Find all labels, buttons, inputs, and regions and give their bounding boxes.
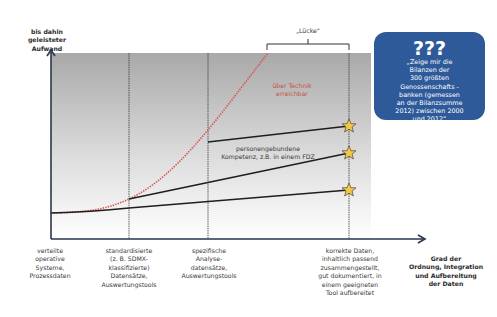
- label-line: über Technik: [262, 82, 322, 90]
- label-line: standardisierte: [94, 247, 164, 255]
- y-axis-label: bis dahin geleisteter Aufwand: [12, 28, 82, 53]
- label-line: zusammengestellt,: [305, 264, 395, 272]
- label-line: (z. B. SDMX-: [94, 255, 164, 263]
- stage-label-2: standardisierte (z. B. SDMX- klassifizie…: [94, 247, 164, 289]
- label-line: „Zeige mir die: [380, 58, 479, 66]
- label-line: spezifische: [174, 247, 244, 255]
- x-axis-label: Grad der Ordnung, Integration und Aufber…: [406, 255, 486, 289]
- red-curve-label: über Technik erreichbar: [262, 82, 322, 99]
- label-line: der Daten: [406, 280, 486, 288]
- label-line: an der Bilanzsumme: [380, 99, 479, 107]
- y-axis-label-line: bis dahin: [12, 28, 82, 36]
- callout-text: „Zeige mir die Bilanzen der 300 größten …: [374, 58, 485, 124]
- label-line: personengebundene: [213, 145, 323, 153]
- label-line: Grad der: [406, 255, 486, 263]
- label-line: korrekte Daten,: [305, 247, 395, 255]
- label-line: Analyse-: [174, 255, 244, 263]
- label-line: erreichbar: [262, 90, 322, 98]
- gap-bracket: [267, 39, 349, 50]
- label-line: Datensätze,: [94, 272, 164, 280]
- label-line: 300 größten: [380, 74, 479, 82]
- label-line: und 2012“: [380, 115, 479, 123]
- competence-label: personengebundene Kompetenz, z.B. in ein…: [213, 145, 323, 162]
- label-line: klassifizierte): [94, 264, 164, 272]
- stage-label-1: verteilte operative Systeme, Prozessdate…: [20, 247, 80, 281]
- label-line: inhaltlich passend: [305, 255, 395, 263]
- label-line: 2012) zwischen 2000: [380, 107, 479, 115]
- label-line: und Aufbereitung: [406, 272, 486, 280]
- label-line: Bilanzen der: [380, 66, 479, 74]
- callout-title: ???: [374, 38, 485, 58]
- label-line: Auswertungstools: [174, 272, 244, 280]
- gap-label: „Lücke“: [283, 27, 333, 35]
- label-line: Prozessdaten: [20, 272, 80, 280]
- label-line: operative: [20, 255, 80, 263]
- y-axis-label-line: geleisteter Aufwand: [12, 36, 82, 53]
- label-line: einem geeigneten: [305, 281, 395, 289]
- stage-label-4: korrekte Daten, inhaltlich passend zusam…: [305, 247, 395, 297]
- label-line: verteilte: [20, 247, 80, 255]
- label-line: Ordnung, Integration: [406, 263, 486, 271]
- label-line: banken (gemessen: [380, 91, 479, 99]
- label-line: Kompetenz, z.B. in einem FDZ: [213, 153, 323, 161]
- label-line: Auswertungstools: [94, 281, 164, 289]
- query-callout: ??? „Zeige mir die Bilanzen der 300 größ…: [374, 32, 485, 120]
- label-line: datensätze,: [174, 264, 244, 272]
- label-line: Systeme,: [20, 264, 80, 272]
- label-line: Genossenschafts -: [380, 83, 479, 91]
- label-line: Tool aufbereitet: [305, 289, 395, 297]
- label-line: gut dokumentiert, in: [305, 272, 395, 280]
- stage-label-3: spezifische Analyse- datensätze, Auswert…: [174, 247, 244, 281]
